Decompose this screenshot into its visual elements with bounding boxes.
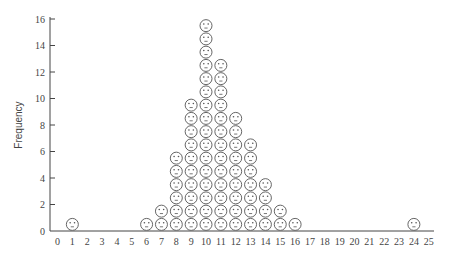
smiley-face-icon (200, 192, 212, 204)
y-tick-label: 4 (40, 173, 45, 184)
x-tick-label: 19 (335, 236, 345, 247)
smiley-face-icon (185, 152, 197, 164)
smiley-face-icon (215, 73, 227, 85)
x-tick-label: 1 (70, 236, 75, 247)
smiley-face-icon (230, 165, 242, 177)
y-axis-title: Frequency (13, 101, 24, 148)
x-tick-label: 9 (189, 236, 194, 247)
x-tick-label: 5 (129, 236, 134, 247)
smiley-face-icon (200, 112, 212, 124)
y-tick-label: 8 (40, 120, 45, 131)
smiley-face-icon (155, 205, 167, 217)
smiley-face-icon (230, 152, 242, 164)
smiley-face-icon (215, 192, 227, 204)
smiley-face-icon (215, 165, 227, 177)
smiley-face-icon (200, 126, 212, 138)
smiley-face-icon (259, 192, 271, 204)
x-tick-label: 15 (275, 236, 285, 247)
x-tick-label: 8 (174, 236, 179, 247)
smiley-face-icon (245, 192, 257, 204)
smiley-face-icon (170, 152, 182, 164)
smiley-face-icon (259, 218, 271, 230)
smiley-face-icon (185, 165, 197, 177)
x-tick-label: 17 (305, 236, 315, 247)
smiley-face-icon (230, 192, 242, 204)
smiley-face-icon (200, 139, 212, 151)
smiley-face-icon (200, 86, 212, 98)
x-tick-label: 23 (394, 236, 404, 247)
smiley-face-icon (200, 152, 212, 164)
smiley-face-icon (215, 86, 227, 98)
smiley-face-icon (245, 205, 257, 217)
smiley-face-icon (230, 218, 242, 230)
smiley-face-icon (200, 73, 212, 85)
smiley-face-icon (170, 179, 182, 191)
smiley-face-icon (200, 165, 212, 177)
smiley-face-icon (200, 33, 212, 45)
smiley-face-icon (215, 218, 227, 230)
smiley-face-icon (185, 179, 197, 191)
x-tick-label: 13 (246, 236, 256, 247)
smiley-face-icon (289, 218, 301, 230)
smiley-face-icon (230, 112, 242, 124)
smiley-face-icon (155, 218, 167, 230)
smiley-face-icon (141, 218, 153, 230)
x-tick-label: 24 (409, 236, 419, 247)
x-tick-label: 22 (379, 236, 389, 247)
x-tick-label: 0 (55, 236, 60, 247)
x-tick-label: 18 (320, 236, 330, 247)
smiley-face-icon (230, 139, 242, 151)
x-tick-label: 25 (424, 236, 434, 247)
y-tick-label: 12 (35, 67, 45, 78)
y-tick-label: 6 (40, 146, 45, 157)
x-tick-label: 20 (350, 236, 360, 247)
smiley-face-icon (215, 126, 227, 138)
smiley-face-icon (245, 218, 257, 230)
smiley-face-icon (185, 218, 197, 230)
x-tick-label: 3 (100, 236, 105, 247)
smiley-face-icon (185, 112, 197, 124)
smiley-face-icon (245, 179, 257, 191)
smiley-face-icon (274, 205, 286, 217)
smiley-face-icon (215, 99, 227, 111)
x-tick-label: 6 (144, 236, 149, 247)
smiley-face-icon (185, 99, 197, 111)
x-tick-label: 21 (364, 236, 374, 247)
smiley-face-icon (185, 205, 197, 217)
smiley-face-icon (200, 46, 212, 58)
smiley-face-icon (230, 205, 242, 217)
x-tick-label: 7 (159, 236, 164, 247)
smiley-face-icon (408, 218, 420, 230)
y-axis-label: Frequency (13, 101, 24, 148)
x-tick-label: 10 (201, 236, 211, 247)
smiley-face-icon (66, 218, 78, 230)
smiley-face-icon (170, 218, 182, 230)
smiley-face-icon (200, 179, 212, 191)
smiley-face-icon (200, 99, 212, 111)
y-tick-label: 2 (40, 199, 45, 210)
smiley-face-icon (245, 152, 257, 164)
y-tick-label: 14 (35, 40, 45, 51)
smiley-face-icon (215, 205, 227, 217)
dot-plot-chart: 0246810121416012345678910111213141516171… (0, 0, 454, 255)
smiley-face-icon (200, 218, 212, 230)
x-tick-label: 14 (260, 236, 270, 247)
y-tick-label: 10 (35, 93, 45, 104)
y-tick-label: 16 (35, 14, 45, 25)
smiley-face-icon (185, 192, 197, 204)
smiley-face-icon (170, 192, 182, 204)
smiley-face-icon (200, 59, 212, 71)
smiley-face-icon (170, 205, 182, 217)
smiley-face-icon (215, 152, 227, 164)
smiley-face-icon (185, 126, 197, 138)
y-tick-label: 0 (40, 226, 45, 237)
smiley-face-icon (259, 205, 271, 217)
x-tick-label: 4 (114, 236, 119, 247)
x-tick-label: 12 (231, 236, 241, 247)
smiley-face-icon (259, 179, 271, 191)
smiley-face-icon (230, 126, 242, 138)
smiley-face-icon (170, 165, 182, 177)
smiley-face-icon (245, 139, 257, 151)
x-tick-label: 16 (290, 236, 300, 247)
x-tick-label: 11 (216, 236, 226, 247)
